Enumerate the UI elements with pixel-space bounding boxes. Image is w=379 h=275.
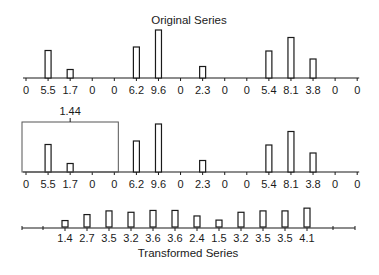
windowed-series-bar (67, 164, 73, 173)
original-series-bar (133, 47, 139, 78)
original-series-tick-label: 8.1 (283, 84, 298, 96)
original-series-tick-label: 0 (222, 84, 228, 96)
transformed-series-tick-label: 3.6 (167, 232, 182, 244)
original-series-tick-label: 0 (354, 84, 360, 96)
transformed-series-bar (172, 210, 178, 227)
original-series-tick-label: 2.3 (195, 84, 210, 96)
windowed-series-tick-label: 2.3 (195, 178, 210, 190)
original-series-bar (155, 30, 161, 78)
transformed-series-bar (194, 216, 200, 227)
original-series-tick-label: 0 (89, 84, 95, 96)
windowed-series-bar (310, 153, 316, 172)
original-series-tick-label: 0 (244, 84, 250, 96)
window-value-label: 1.44 (59, 105, 80, 117)
transformed-series-bar (216, 220, 222, 227)
windowed-series-tick-label: 0 (177, 178, 183, 190)
transformed-series-tick-label: 2.4 (189, 232, 204, 244)
original-series-tick-label: 5.4 (261, 84, 276, 96)
transformed-series-bar (106, 211, 112, 227)
original-series-tick-label: 0 (332, 84, 338, 96)
transformed-series-bar (260, 211, 266, 227)
windowed-series-tick-label: 0 (89, 178, 95, 190)
transformed-series-bar (128, 212, 134, 227)
original-series-tick-label: 9.6 (151, 84, 166, 96)
windowed-series-tick-label: 3.8 (305, 178, 320, 190)
windowed-series-tick-label: 8.1 (283, 178, 298, 190)
bottom-title: Transformed Series (138, 247, 239, 259)
transformed-series-bar (282, 211, 288, 227)
windowed-series-bar (133, 141, 139, 172)
windowed-series-tick-label: 6.2 (129, 178, 144, 190)
windowed-series-tick-label: 1.7 (63, 178, 78, 190)
top-title: Original Series (151, 14, 227, 26)
original-series-bar (288, 38, 294, 79)
original-series-tick-label: 0 (23, 84, 29, 96)
original-series-tick-label: 0 (177, 84, 183, 96)
windowed-series-tick-label: 0 (332, 178, 338, 190)
original-series-tick-label: 6.2 (129, 84, 144, 96)
original-series-bar (67, 70, 73, 79)
windowed-series-bar (155, 124, 161, 172)
transformed-series-bar (84, 215, 90, 227)
original-series-bar (200, 67, 206, 79)
original-series-tick-label: 3.8 (305, 84, 320, 96)
windowed-series-bar (288, 132, 294, 173)
windowed-series-tick-label: 0 (222, 178, 228, 190)
original-series-tick-label: 5.5 (40, 84, 55, 96)
transformed-series-tick-label: 3.5 (101, 232, 116, 244)
transformed-series-tick-label: 1.5 (211, 232, 226, 244)
windowed-series-tick-label: 0 (111, 178, 117, 190)
transformed-series-tick-label: 3.6 (145, 232, 160, 244)
transformed-series-bar (304, 208, 310, 227)
transformed-series-tick-label: 3.2 (123, 232, 138, 244)
transformed-series-tick-label: 3.5 (277, 232, 292, 244)
transformed-series-tick-label: 1.4 (57, 232, 72, 244)
transformed-series-bar (238, 212, 244, 227)
windowed-series-tick-label: 5.4 (261, 178, 276, 190)
original-series-bar (310, 59, 316, 78)
transformed-series-tick-label: 2.7 (79, 232, 94, 244)
original-series-tick-label: 0 (111, 84, 117, 96)
windowed-series-tick-label: 0 (244, 178, 250, 190)
windowed-series-tick-label: 0 (23, 178, 29, 190)
original-series-bar (266, 51, 272, 78)
windowed-series-tick-label: 0 (354, 178, 360, 190)
moving-window-diagram: Original Series05.51.7006.29.602.3005.48… (0, 0, 379, 275)
windowed-series-bar (266, 145, 272, 172)
windowed-series-tick-label: 9.6 (151, 178, 166, 190)
original-series-bar (45, 51, 51, 79)
transformed-series-tick-label: 4.1 (299, 232, 314, 244)
transformed-series-bar (62, 221, 68, 227)
transformed-series-tick-label: 3.2 (233, 232, 248, 244)
transformed-series-bar (150, 210, 156, 227)
windowed-series-bar (45, 145, 51, 173)
original-series-tick-label: 1.7 (63, 84, 78, 96)
transformed-series-tick-label: 3.5 (255, 232, 270, 244)
windowed-series-bar (200, 161, 206, 173)
windowed-series-tick-label: 5.5 (40, 178, 55, 190)
